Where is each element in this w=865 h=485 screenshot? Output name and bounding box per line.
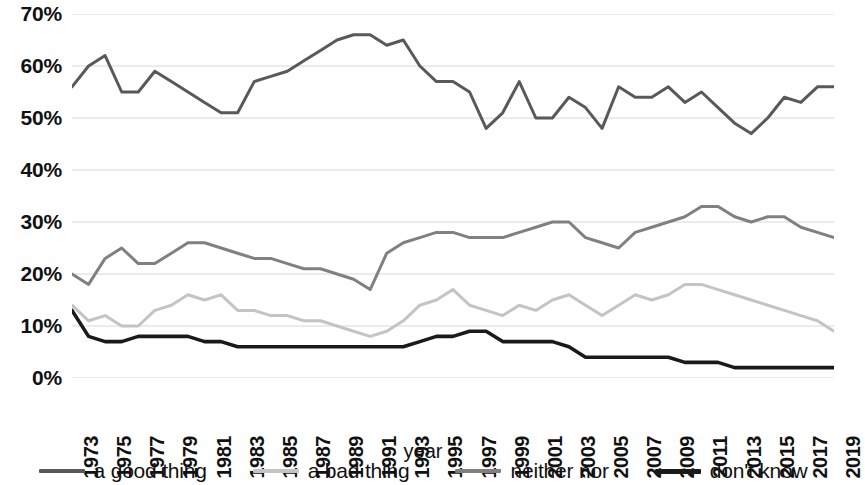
legend-swatch-icon: [253, 469, 299, 473]
y-axis-tick-labels: 70%60%50%40%30%20%10%0%: [0, 0, 62, 400]
series-line-a-good-thing: [72, 35, 834, 134]
legend-item[interactable]: a bad thing: [253, 459, 410, 483]
y-axis-tick-label: 50%: [21, 106, 62, 130]
x-axis-tick-labels: 1973197519771979198119831985198719891991…: [72, 380, 834, 440]
y-axis-tick-label: 60%: [21, 54, 62, 78]
y-axis-tick-label: 0%: [32, 366, 62, 390]
plot-svg: [72, 14, 834, 378]
data-series-group: [72, 35, 834, 368]
series-line-neither-nor: [72, 206, 834, 289]
series-line-a-bad-thing: [72, 284, 834, 336]
chart-legend: a good thinga bad thingneither nordon't …: [0, 458, 846, 484]
legend-item[interactable]: don't know: [655, 459, 808, 483]
y-axis-tick-label: 10%: [21, 314, 62, 338]
series-line-don-t-know: [72, 310, 834, 367]
y-axis-tick-label: 20%: [21, 262, 62, 286]
plot-area: [72, 14, 834, 378]
y-axis-tick-label: 40%: [21, 158, 62, 182]
legend-label: a bad thing: [308, 459, 410, 483]
legend-item[interactable]: neither nor: [455, 459, 608, 483]
y-axis-tick-label: 70%: [21, 2, 62, 26]
legend-label: neither nor: [510, 459, 608, 483]
legend-swatch-icon: [455, 469, 501, 473]
legend-swatch-icon: [39, 469, 85, 473]
legend-label: a good thing: [94, 459, 207, 483]
legend-item[interactable]: a good thing: [39, 459, 207, 483]
legend-label: don't know: [710, 459, 808, 483]
gridlines: [72, 14, 834, 378]
y-axis-tick-label: 30%: [21, 210, 62, 234]
legend-swatch-icon: [655, 469, 701, 474]
